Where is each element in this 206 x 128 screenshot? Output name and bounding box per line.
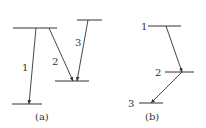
transition-3-arrow xyxy=(77,20,88,81)
level-2-label: 2 xyxy=(155,67,161,78)
level-1-label: 1 xyxy=(141,21,147,32)
panel-a-caption: (a) xyxy=(35,111,49,122)
transition-2-label: 2 xyxy=(52,56,58,67)
panel-b: 1 2 3 (b) xyxy=(128,21,194,122)
transition-3-label: 3 xyxy=(75,37,81,48)
panel-b-caption: (b) xyxy=(145,111,159,122)
panel-a: 1 2 3 (a) xyxy=(12,20,102,122)
level-3-label: 3 xyxy=(128,98,134,109)
energy-level-diagram: 1 2 3 (a) 1 2 3 (b) xyxy=(0,0,206,128)
transition-2-arrow xyxy=(49,28,73,81)
transition-1-to-2-arrow xyxy=(166,26,182,72)
transition-1-arrow xyxy=(29,28,36,104)
transition-1-label: 1 xyxy=(22,62,28,73)
